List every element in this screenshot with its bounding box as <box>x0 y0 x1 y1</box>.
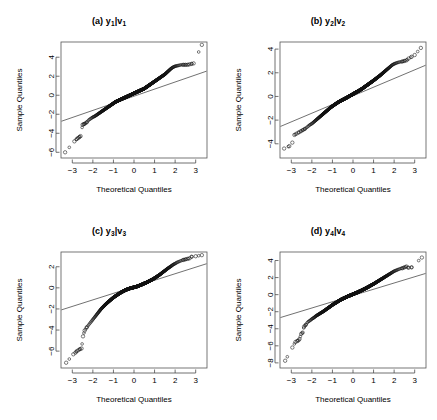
data-point <box>416 50 419 53</box>
x-tick-label: −3 <box>287 376 297 385</box>
x-tick-label: 1 <box>371 166 376 175</box>
x-tick-label: 2 <box>173 376 178 385</box>
y-tick-label: −4 <box>266 324 275 334</box>
data-point <box>417 259 420 262</box>
y-axis-label: Sample Quantiles <box>15 68 24 131</box>
data-point-outlier <box>192 62 195 65</box>
data-point-outlier <box>413 53 416 56</box>
y-tick-label: 0 <box>47 92 56 97</box>
data-point <box>68 146 71 149</box>
x-tick-label: 1 <box>152 376 157 385</box>
x-tick-label: −1 <box>328 376 338 385</box>
data-point-outlier <box>283 359 286 362</box>
x-axis: −3−2−10123 <box>287 370 418 386</box>
x-axis: −3−2−10123 <box>68 370 199 386</box>
data-point-outlier <box>194 255 197 258</box>
data-layer <box>61 253 207 364</box>
data-point-outlier <box>291 141 294 144</box>
data-points <box>283 256 423 363</box>
data-point-outlier <box>200 253 203 256</box>
y-tick-label: 0 <box>266 94 275 99</box>
y-axis-label: Sample Quantiles <box>234 68 243 131</box>
x-tick-label: 2 <box>392 376 397 385</box>
x-tick-label: −1 <box>109 376 119 385</box>
plot-area: −3−2−10123420−2−4−6−8Theoretical Quantil… <box>219 210 437 420</box>
x-tick-label: −3 <box>68 166 78 175</box>
data-point <box>410 266 413 269</box>
y-axis-label: Sample Quantiles <box>15 278 24 341</box>
y-tick-label: −4 <box>47 128 56 138</box>
x-axis-label: Theoretical Quantiles <box>96 185 172 194</box>
y-axis: 420−2−4−6−8 <box>266 258 279 368</box>
x-axis-label: Theoretical Quantiles <box>315 395 391 404</box>
y-tick-label: −2 <box>266 307 275 317</box>
data-point <box>68 358 71 361</box>
plot-border <box>280 252 426 368</box>
qq-panel-a: (a) y1|v1−3−2−10123420−2−4−6Theoretical … <box>0 0 218 210</box>
x-tick-label: 3 <box>193 376 198 385</box>
data-points <box>282 46 422 150</box>
y-tick-label: 0 <box>47 285 56 290</box>
data-point-outlier <box>282 147 285 150</box>
y-tick-label: −6 <box>47 346 56 356</box>
plot-border <box>61 252 207 368</box>
plot-border <box>61 42 207 158</box>
y-tick-label: 0 <box>266 292 275 297</box>
y-axis: 420−2−4−6 <box>47 54 60 156</box>
data-points <box>64 253 203 364</box>
data-point-outlier <box>81 335 84 338</box>
plot-area: −3−2−10123420−2−4−6Theoretical Quantiles… <box>0 0 218 210</box>
data-layer <box>280 256 426 363</box>
data-point-outlier <box>291 346 294 349</box>
x-tick-label: 0 <box>351 166 356 175</box>
y-tick-label: −6 <box>47 147 56 157</box>
data-point <box>81 343 84 346</box>
x-tick-label: 0 <box>132 376 137 385</box>
data-point-outlier <box>420 256 423 259</box>
x-tick-label: −3 <box>287 166 297 175</box>
y-tick-label: 2 <box>266 70 275 75</box>
data-point-outlier <box>64 361 67 364</box>
x-axis: −3−2−10123 <box>68 160 199 176</box>
y-tick-label: 2 <box>47 73 56 78</box>
x-tick-label: 3 <box>412 166 417 175</box>
data-layer <box>61 43 207 154</box>
y-axis: 420−2−4 <box>266 46 279 148</box>
y-tick-label: −4 <box>266 139 275 149</box>
qq-panel-b: (b) y2|v2−3−2−10123420−2−4Theoretical Qu… <box>219 0 437 210</box>
y-tick-label: 4 <box>266 46 275 51</box>
x-axis-label: Theoretical Quantiles <box>96 395 172 404</box>
data-point-outlier <box>200 43 203 46</box>
y-tick-label: −6 <box>266 341 275 351</box>
x-tick-label: −3 <box>68 376 78 385</box>
y-axis: 20−2−4−6 <box>47 264 60 356</box>
x-tick-label: −1 <box>109 166 119 175</box>
x-axis-label: Theoretical Quantiles <box>315 185 391 194</box>
data-layer <box>280 46 426 150</box>
x-tick-label: 0 <box>351 376 356 385</box>
x-tick-label: 1 <box>371 376 376 385</box>
y-tick-label: 2 <box>47 264 56 269</box>
x-tick-label: 0 <box>132 166 137 175</box>
x-tick-label: 2 <box>392 166 397 175</box>
x-tick-label: −2 <box>88 376 98 385</box>
data-point <box>286 355 289 358</box>
x-tick-label: 1 <box>152 166 157 175</box>
data-point <box>197 51 200 54</box>
plot-area: −3−2−10123420−2−4Theoretical QuantilesSa… <box>219 0 437 210</box>
x-tick-label: 3 <box>412 376 417 385</box>
y-tick-label: −2 <box>47 109 56 119</box>
data-point <box>197 254 200 257</box>
plot-area: −3−2−1012320−2−4−6Theoretical QuantilesS… <box>0 210 218 420</box>
data-point-outlier <box>63 151 66 154</box>
qq-reference-line <box>61 71 207 121</box>
qq-plot-figure: (a) y1|v1−3−2−10123420−2−4−6Theoretical … <box>0 0 437 420</box>
x-tick-label: −1 <box>328 166 338 175</box>
x-tick-label: −2 <box>307 376 317 385</box>
y-tick-label: 2 <box>266 275 275 280</box>
y-axis-label: Sample Quantiles <box>234 278 243 341</box>
y-tick-label: 4 <box>47 54 56 59</box>
x-tick-label: −2 <box>88 166 98 175</box>
y-tick-label: −8 <box>266 358 275 368</box>
qq-panel-d: (d) y4|v4−3−2−10123420−2−4−6−8Theoretica… <box>219 210 437 420</box>
